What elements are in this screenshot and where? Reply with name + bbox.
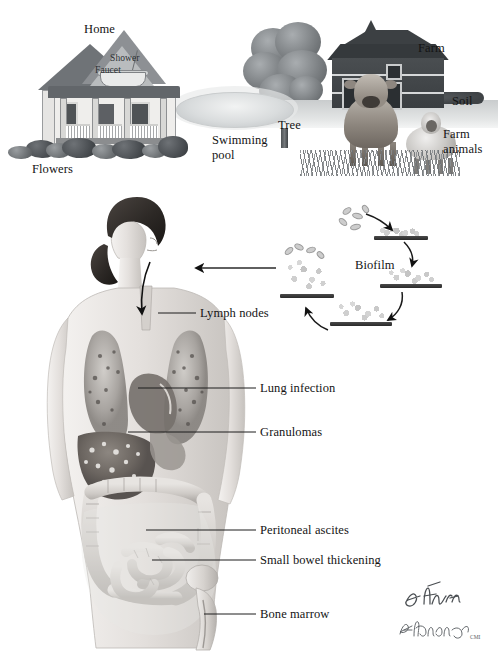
porch-column <box>160 98 167 142</box>
biofilm-substrate <box>380 284 442 288</box>
flower-bed <box>112 140 146 159</box>
body-silhouette <box>47 197 245 648</box>
netter-signature <box>406 582 460 606</box>
label-tree: Tree <box>278 118 301 133</box>
pasture-grass <box>300 150 460 176</box>
label-flowers: Flowers <box>32 162 73 177</box>
devanzo-signature <box>400 622 469 639</box>
environmental-scene <box>0 0 498 195</box>
inhalation-pathway-arrow <box>141 262 150 314</box>
swimming-pool <box>176 92 294 128</box>
label-shower: Shower <box>110 53 140 64</box>
label-farm: Farm <box>418 41 445 56</box>
label-small-bowel-thickening: Small bowel thickening <box>260 553 381 568</box>
biofilm-substrate <box>280 294 334 298</box>
sheep-face <box>426 120 437 132</box>
bacillus <box>283 245 295 256</box>
label-swimming-pool: Swimming pool <box>212 133 268 163</box>
illustration-canvas: Home Shower Faucet Flowers Swimming pool… <box>0 0 498 651</box>
biofilm-substrate <box>374 236 428 240</box>
porch-roof <box>48 86 180 98</box>
skeletal-anatomy <box>186 565 218 650</box>
thoracic-anatomy <box>84 286 208 444</box>
bacillus <box>349 223 361 231</box>
cycle-arrow-colonization <box>404 242 413 266</box>
hepatic-granulomas <box>84 442 140 487</box>
flower-bed <box>8 146 32 159</box>
cycle-arrow-maturation <box>388 292 402 320</box>
bacillus <box>305 246 316 255</box>
label-peritoneal-ascites: Peritoneal ascites <box>260 523 349 538</box>
bacillus <box>351 212 363 221</box>
peritoneal-ascites-fluid <box>81 503 216 635</box>
flower-bed <box>158 136 188 158</box>
leader-lines <box>128 313 256 614</box>
cow-muzzle <box>362 96 380 108</box>
label-granulomas: Granulomas <box>260 425 322 440</box>
bacillus <box>360 204 370 215</box>
label-bone-marrow: Bone marrow <box>260 607 329 622</box>
biofilm-stage-dispersion <box>286 256 328 294</box>
biofilm-stage-maturation <box>336 300 388 322</box>
label-home: Home <box>84 22 115 37</box>
femoral-marrow-cavity <box>203 600 205 648</box>
small-bowel-loops <box>115 537 190 597</box>
label-biofilm: Biofilm <box>355 258 395 273</box>
cycle-arrow-dispersion <box>306 308 328 330</box>
label-soil: Soil <box>452 94 473 109</box>
label-farm-animals: Farm animals <box>443 127 483 157</box>
label-faucet: Faucet <box>95 65 121 76</box>
flower-bed <box>62 138 96 158</box>
signature-suffix: CMI <box>470 634 481 640</box>
label-lymph-nodes: Lymph nodes <box>200 306 269 321</box>
bacillus <box>337 216 349 227</box>
abdominal-anatomy <box>78 432 216 635</box>
bacillus <box>293 242 305 252</box>
biofilm-substrate <box>330 322 392 326</box>
biofilm-stage-attachment <box>378 228 422 236</box>
label-lung-infection: Lung infection <box>260 381 335 396</box>
